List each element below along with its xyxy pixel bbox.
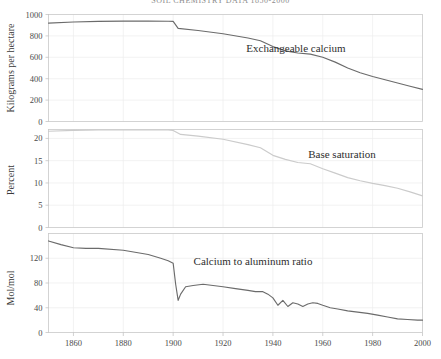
base-saturation-line xyxy=(49,130,423,196)
calcium-aluminum-ratio-line xyxy=(49,241,423,320)
panel1-ticks xyxy=(46,15,49,122)
y-tick-label: 80 xyxy=(34,278,43,288)
y-tick-label: 120 xyxy=(30,253,43,263)
panel1-frame xyxy=(49,15,423,122)
y-tick-label: 1000 xyxy=(26,10,43,20)
calcium-aluminum-ratio-label: Calcium to aluminum ratio xyxy=(194,255,313,267)
figure-container: SOIL CHEMISTRY DATA 1850-2000 0200400600… xyxy=(0,0,441,359)
x-tick-label: 1980 xyxy=(364,338,381,348)
x-tick-label: 1900 xyxy=(165,338,182,348)
panel2-gridlines xyxy=(49,130,423,228)
y-tick-label: 15 xyxy=(34,156,43,166)
panel1-tick-labels: 02004006008001000 xyxy=(26,10,43,127)
y-tick-label: 5 xyxy=(38,200,42,210)
base-saturation-label: Base saturation xyxy=(308,148,376,160)
panel-exchangeable-calcium: 02004006008001000 Exchangeable calcium K… xyxy=(5,10,423,127)
y-tick-label: 40 xyxy=(34,303,43,313)
panel3-y-axis-label: Mol/mol xyxy=(5,270,16,305)
y-tick-label: 200 xyxy=(30,95,43,105)
x-tick-label: 1920 xyxy=(215,338,232,348)
y-tick-label: 0 xyxy=(38,223,42,233)
x-tick-label: 1860 xyxy=(65,338,82,348)
x-tick-label: 1960 xyxy=(314,338,331,348)
panel3-ticks xyxy=(46,258,49,332)
y-tick-label: 800 xyxy=(30,31,43,41)
figure-title: SOIL CHEMISTRY DATA 1850-2000 xyxy=(0,0,441,4)
soil-chemistry-chart: 02004006008001000 Exchangeable calcium K… xyxy=(0,0,441,359)
panel2-frame xyxy=(49,130,423,228)
panel-base-saturation: 05101520 Base saturation Percent xyxy=(5,130,423,233)
panel2-y-axis-label: Percent xyxy=(5,165,16,195)
x-tick-label: 2000 xyxy=(414,338,431,348)
y-tick-label: 600 xyxy=(30,52,43,62)
x-axis xyxy=(73,333,422,337)
x-axis-labels: 18601880190019201940196019802000 xyxy=(65,338,431,348)
panel3-tick-labels: 04080120 xyxy=(30,253,43,337)
panel-calcium-aluminum-ratio: 04080120 Calcium to aluminum ratio Mol/m… xyxy=(5,234,423,338)
panel2-ticks xyxy=(46,138,49,227)
exchangeable-calcium-line xyxy=(49,21,423,89)
y-tick-label: 400 xyxy=(30,74,43,84)
y-tick-label: 20 xyxy=(34,133,43,143)
x-tick-label: 1880 xyxy=(115,338,132,348)
exchangeable-calcium-label: Exchangeable calcium xyxy=(246,42,346,54)
panel2-tick-labels: 05101520 xyxy=(34,133,43,232)
panel1-gridlines xyxy=(49,15,423,122)
y-tick-label: 0 xyxy=(38,117,42,127)
y-tick-label: 10 xyxy=(34,178,43,188)
panel1-y-axis-label: Kilograms per hectare xyxy=(5,23,16,112)
x-tick-label: 1940 xyxy=(264,338,281,348)
y-tick-label: 0 xyxy=(38,328,42,338)
